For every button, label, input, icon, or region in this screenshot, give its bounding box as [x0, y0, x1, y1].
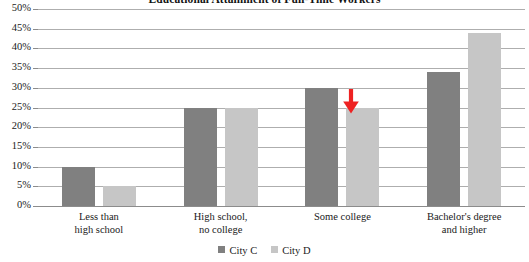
x-axis-tick-label-line: high school: [29, 224, 169, 237]
bar: [103, 186, 136, 206]
legend-item[interactable]: City D: [271, 245, 310, 256]
x-axis-tick-label-line: and higher: [394, 224, 529, 237]
y-axis-tick-label: 0%: [0, 200, 31, 211]
x-axis-tick-label: Some college: [272, 211, 412, 224]
plot-area: [38, 9, 525, 206]
x-axis-tick-label-line: Less than: [29, 211, 169, 224]
bar: [427, 72, 460, 206]
bar-chart: Educational Attainment of Full-Time Work…: [0, 0, 529, 262]
y-axis-tick-label: 15%: [0, 141, 31, 152]
x-axis-tick-label-line: no college: [151, 224, 291, 237]
legend-item[interactable]: City C: [218, 245, 257, 256]
legend-label: City D: [282, 245, 310, 256]
y-axis-tick-label: 35%: [0, 62, 31, 73]
chart-title: Educational Attainment of Full-Time Work…: [0, 0, 529, 5]
gridline: [38, 48, 525, 49]
x-axis-tick-label-line: Some college: [272, 211, 412, 224]
bar: [225, 108, 258, 207]
bar: [184, 108, 217, 207]
gridline: [38, 68, 525, 69]
bar: [468, 33, 501, 206]
x-axis-tick-label: High school,no college: [151, 211, 291, 236]
gridline: [38, 29, 525, 30]
y-axis-tick-label: 20%: [0, 121, 31, 132]
legend-label: City C: [229, 245, 257, 256]
x-axis-tick-label: Bachelor's degreeand higher: [394, 211, 529, 236]
x-axis-tick-label-line: Bachelor's degree: [394, 211, 529, 224]
bar: [62, 167, 95, 206]
y-axis-tick-label: 25%: [0, 102, 31, 113]
axis-baseline: [38, 206, 525, 207]
legend-swatch: [218, 246, 225, 253]
legend: City CCity D: [0, 244, 529, 256]
x-axis-tick-label-line: High school,: [151, 211, 291, 224]
y-axis-tick-label: 30%: [0, 82, 31, 93]
legend-swatch: [271, 246, 278, 253]
y-axis-tick-label: 10%: [0, 161, 31, 172]
y-axis-tick-label: 40%: [0, 42, 31, 53]
gridline: [38, 9, 525, 10]
y-axis-tick-label: 50%: [0, 3, 31, 14]
x-axis-tick-label: Less thanhigh school: [29, 211, 169, 236]
bar: [346, 108, 379, 207]
bar: [305, 88, 338, 206]
y-axis-tick-label: 5%: [0, 180, 31, 191]
y-axis-tick-label: 45%: [0, 23, 31, 34]
